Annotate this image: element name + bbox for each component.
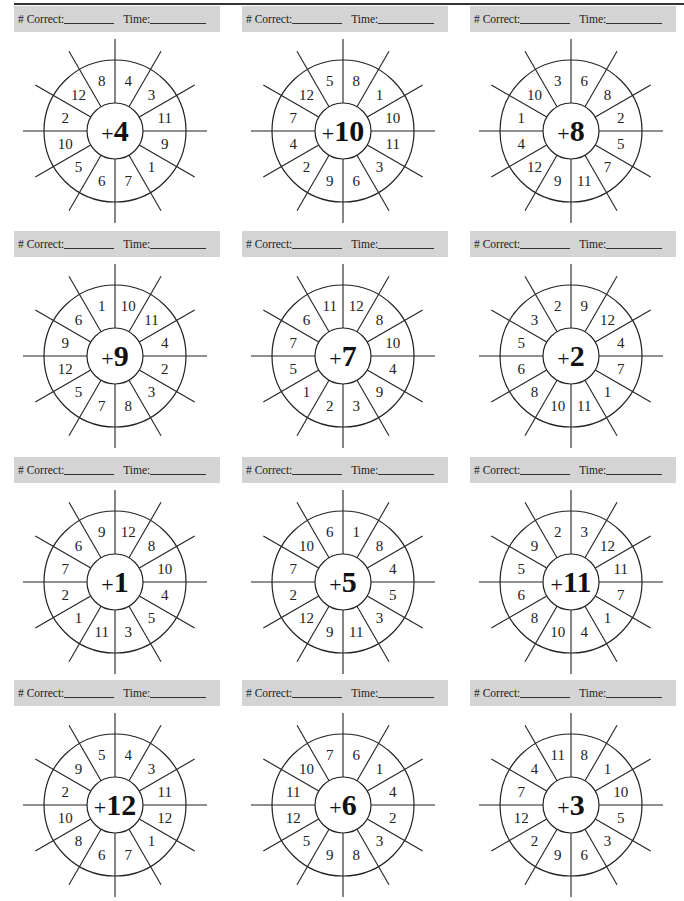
time-blank[interactable] <box>378 460 434 475</box>
wheel-number: 9 <box>161 136 169 152</box>
time-blank[interactable] <box>378 234 434 249</box>
time-blank[interactable] <box>606 683 662 698</box>
correct-label: # Correct: <box>474 6 520 32</box>
addition-wheel-panel-3: 682571191241103+8 # Correct: Time: <box>470 6 684 232</box>
spoke-line <box>297 829 329 884</box>
wheel-number: 7 <box>518 784 526 800</box>
correct-blank[interactable] <box>520 683 570 698</box>
wheel-number: 1 <box>148 833 156 849</box>
addition-wheel-panel-7: 128104531112769+1 # Correct: Time: <box>14 457 242 683</box>
time-label: Time: <box>579 680 606 706</box>
addition-wheel: 431191765102128+4 <box>14 6 242 232</box>
wheel-number: 5 <box>326 73 334 89</box>
time-label: Time: <box>123 680 150 706</box>
correct-blank[interactable] <box>64 9 114 24</box>
wheel-number: 1 <box>353 524 361 540</box>
correct-blank[interactable] <box>292 460 342 475</box>
addition-wheel-panel-5: 128104932157611+7 # Correct: Time: <box>242 231 470 457</box>
wheel-number: 8 <box>531 610 539 626</box>
score-header: # Correct: Time: <box>242 231 448 257</box>
correct-label: # Correct: <box>18 680 64 706</box>
wheel-number: 8 <box>98 73 106 89</box>
correct-blank[interactable] <box>520 9 570 24</box>
time-label: Time: <box>123 231 150 257</box>
addition-wheel: 101142387512961+9 <box>14 231 242 457</box>
wheel-number: 3 <box>531 312 539 328</box>
plus-sign: + <box>101 346 113 371</box>
addend-value: 11 <box>563 565 591 598</box>
correct-blank[interactable] <box>64 234 114 249</box>
wheel-number: 6 <box>303 312 311 328</box>
wheel-number: 11 <box>577 398 591 414</box>
score-header: # Correct: Time: <box>14 6 220 32</box>
correct-label: # Correct: <box>18 457 64 483</box>
correct-blank[interactable] <box>520 460 570 475</box>
wheel-number: 2 <box>161 361 169 377</box>
spoke-line <box>129 725 161 780</box>
wheel-number: 4 <box>290 136 298 152</box>
score-header: # Correct: Time: <box>470 231 676 257</box>
wheel-number: 7 <box>604 159 612 175</box>
wheel-number: 1 <box>376 87 384 103</box>
spoke-line <box>129 51 161 106</box>
wheel-number: 12 <box>121 524 136 540</box>
wheel-number: 5 <box>617 810 625 826</box>
time-blank[interactable] <box>378 9 434 24</box>
wheel-number: 9 <box>531 538 539 554</box>
correct-label: # Correct: <box>18 231 64 257</box>
correct-blank[interactable] <box>292 683 342 698</box>
wheel-number: 11 <box>349 624 363 640</box>
addend-value: 4 <box>114 114 129 147</box>
correct-label: # Correct: <box>246 231 292 257</box>
wheel-number: 8 <box>376 312 384 328</box>
addition-wheel: 912471111086532+2 <box>470 231 684 457</box>
wheel-number: 6 <box>353 747 361 763</box>
addition-wheel: 184531191227106+5 <box>242 457 470 683</box>
time-blank[interactable] <box>378 683 434 698</box>
spoke-line <box>69 276 101 331</box>
wheel-number: 1 <box>148 159 156 175</box>
time-blank[interactable] <box>150 234 206 249</box>
addition-wheel: 682571191241103+8 <box>470 6 684 232</box>
spoke-line <box>357 155 389 210</box>
spoke-line <box>297 155 329 210</box>
correct-blank[interactable] <box>520 234 570 249</box>
wheel-number: 1 <box>604 610 612 626</box>
addend-value: 12 <box>106 788 136 821</box>
correct-blank[interactable] <box>64 683 114 698</box>
wheel-number: 6 <box>518 361 526 377</box>
correct-blank[interactable] <box>64 460 114 475</box>
wheel-number: 6 <box>518 587 526 603</box>
correct-label: # Correct: <box>474 680 520 706</box>
time-blank[interactable] <box>150 9 206 24</box>
plus-sign: + <box>329 346 341 371</box>
wheel-number: 6 <box>353 173 361 189</box>
time-blank[interactable] <box>606 234 662 249</box>
correct-blank[interactable] <box>292 234 342 249</box>
wheel-number: 6 <box>581 847 589 863</box>
wheel-number: 6 <box>581 73 589 89</box>
wheel-number: 10 <box>299 761 314 777</box>
time-blank[interactable] <box>150 460 206 475</box>
wheel-number: 10 <box>613 784 628 800</box>
wheel-number: 8 <box>604 87 612 103</box>
time-blank[interactable] <box>606 9 662 24</box>
wheel-number: 5 <box>617 136 625 152</box>
spoke-line <box>357 380 389 435</box>
time-blank[interactable] <box>150 683 206 698</box>
time-blank[interactable] <box>606 460 662 475</box>
time-label: Time: <box>123 6 150 32</box>
correct-blank[interactable] <box>292 9 342 24</box>
spoke-line <box>69 502 101 557</box>
wheel-number: 2 <box>531 833 539 849</box>
wheel-number: 4 <box>125 73 133 89</box>
wheel-number: 2 <box>62 110 70 126</box>
wheel-number: 10 <box>550 398 565 414</box>
wheel-number: 5 <box>389 587 397 603</box>
wheel-number: 3 <box>554 73 562 89</box>
wheel-number: 5 <box>75 384 83 400</box>
wheel-number: 7 <box>617 361 625 377</box>
spoke-line <box>525 502 557 557</box>
wheel-number: 3 <box>604 833 612 849</box>
wheel-number: 3 <box>125 624 133 640</box>
